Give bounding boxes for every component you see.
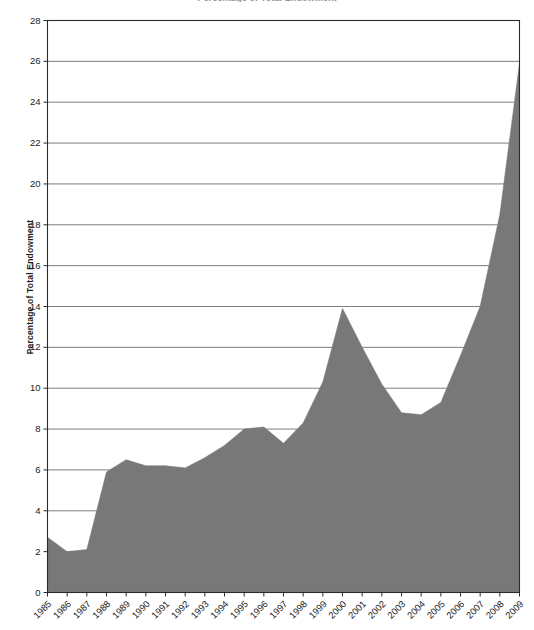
x-tick-label: 1994 <box>209 599 231 621</box>
x-tick-label: 1986 <box>51 599 73 621</box>
x-tick-label: 1992 <box>169 599 191 621</box>
x-tick-label: 2002 <box>366 599 388 621</box>
x-tick-label: 1998 <box>287 599 309 621</box>
y-tick-label: 26 <box>30 55 41 66</box>
y-tick-label: 24 <box>30 96 41 107</box>
y-tick-label: 22 <box>30 137 41 148</box>
x-tick-label: 1987 <box>71 599 93 621</box>
x-tick-label: 2009 <box>504 599 526 621</box>
x-tick-label: 2008 <box>484 599 506 621</box>
x-tick-label: 2007 <box>464 599 486 621</box>
y-tick-label: 0 <box>35 587 40 598</box>
y-tick-label: 2 <box>35 546 40 557</box>
x-tick-label: 1985 <box>32 599 54 621</box>
x-tick-label: 1997 <box>268 599 290 621</box>
y-tick-label: 18 <box>30 219 41 230</box>
x-tick-label: 2004 <box>405 599 427 621</box>
x-tick-label: 1988 <box>91 599 113 621</box>
x-axis-tick-labels: 1985198619871988198919901991199219931994… <box>32 593 526 621</box>
x-tick-label: 2006 <box>445 599 467 621</box>
y-tick-label: 20 <box>30 178 41 189</box>
x-tick-label: 1995 <box>228 599 250 621</box>
area-chart-plot: 0246810121416182022242628 19851986198719… <box>0 0 534 630</box>
x-tick-label: 1991 <box>150 599 172 621</box>
y-tick-label: 16 <box>30 260 41 271</box>
x-tick-label: 2000 <box>327 599 349 621</box>
x-tick-label: 1990 <box>130 599 152 621</box>
y-axis-tick-labels: 0246810121416182022242628 <box>30 15 48 598</box>
y-tick-label: 12 <box>30 341 41 352</box>
x-tick-label: 2005 <box>425 599 447 621</box>
x-tick-label: 2003 <box>386 599 408 621</box>
chart-container: Percentage of Total Endowment Percentage… <box>0 0 534 630</box>
y-tick-label: 14 <box>30 301 41 312</box>
y-tick-label: 10 <box>30 382 41 393</box>
y-tick-label: 6 <box>35 464 40 475</box>
x-tick-label: 1993 <box>189 599 211 621</box>
y-tick-label: 4 <box>35 505 40 516</box>
x-tick-label: 1999 <box>307 599 329 621</box>
y-tick-label: 8 <box>35 423 40 434</box>
x-tick-label: 1989 <box>110 599 132 621</box>
x-tick-label: 2001 <box>346 599 368 621</box>
x-tick-label: 1996 <box>248 599 270 621</box>
y-tick-label: 28 <box>30 15 41 26</box>
